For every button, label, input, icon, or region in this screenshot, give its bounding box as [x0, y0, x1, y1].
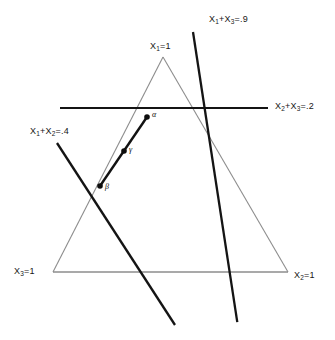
- vertex-label-x2: X2=1: [294, 270, 315, 280]
- point-marker-beta: [97, 183, 103, 189]
- vertex-label-x1: X1=1: [150, 41, 171, 51]
- diagram-canvas: [0, 0, 335, 340]
- constraint-line-x1-x2: [57, 143, 175, 325]
- solution-segment-group: [97, 114, 150, 189]
- point-marker-gamma: [121, 148, 127, 154]
- point-label-beta: β: [105, 182, 109, 191]
- point-label-alpha: α: [152, 110, 156, 119]
- constraint-lines: [57, 32, 268, 325]
- simplex-triangle: [53, 57, 288, 272]
- constraint-label-x2-x3: X2+X3=.2: [275, 101, 314, 111]
- constraint-line-x1-x3: [176, 32, 254, 322]
- vertex-label-x3: X3=1: [14, 266, 35, 276]
- constraint-label-x1-x3: X1+X3=.9: [209, 14, 248, 24]
- triangle-edge-left: [53, 57, 163, 272]
- point-label-gamma: γ: [129, 145, 132, 154]
- point-marker-alpha: [144, 114, 150, 120]
- constraint-label-x1-x2: X1+X2=.4: [30, 126, 69, 136]
- constraint-diagram-figure: X1+X3=.9 X2+X3=.2 X1+X2=.4 X1=1 X3=1 X2=…: [0, 0, 335, 340]
